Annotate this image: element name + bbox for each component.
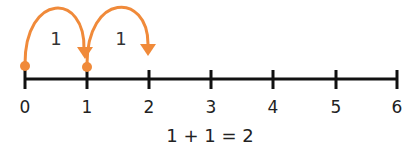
tick-label-1: 1 [82,99,93,116]
arrowhead-icon [140,44,156,56]
tick-label-6: 6 [392,99,403,116]
tick-label-3: 3 [206,99,217,116]
arrowhead-icon [77,47,93,59]
number-line-diagram: 1 1 0 1 2 3 4 5 6 1 + 1 = 2 [0,0,414,154]
jump-label-2: 1 [115,30,126,48]
jump-label-1: 1 [50,30,61,48]
start-dot [82,62,92,72]
tick-label-5: 5 [331,99,342,116]
tick-label-2: 2 [144,99,155,116]
tick-label-0: 0 [20,99,31,116]
start-dot [20,61,30,71]
equation: 1 + 1 = 2 [166,127,253,145]
tick-label-4: 4 [268,99,279,116]
